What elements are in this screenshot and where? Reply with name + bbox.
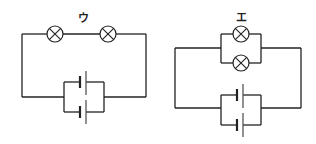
bulb-icon <box>100 26 116 42</box>
bulb-icon <box>47 26 63 42</box>
battery-cell-icon <box>80 100 86 124</box>
battery-cell-icon <box>237 113 243 137</box>
bulb-icon <box>233 55 249 71</box>
bulb-icon <box>233 26 249 42</box>
circuit-u-wires <box>22 34 146 112</box>
circuit-e-wires <box>175 34 301 125</box>
battery-cell-icon <box>237 84 243 108</box>
circuit-e <box>175 26 301 137</box>
battery-cell-icon <box>80 71 86 95</box>
circuit-u <box>22 26 146 124</box>
